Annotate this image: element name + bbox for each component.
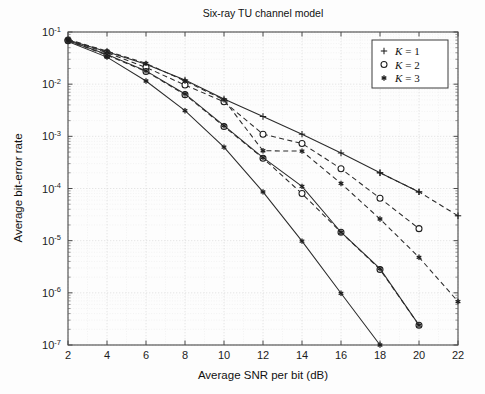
- legend-label: K= 3: [394, 72, 420, 84]
- circle-marker: [299, 191, 305, 197]
- legend-label: K= 2: [394, 59, 420, 71]
- x-tick-label: 8: [182, 349, 188, 361]
- x-tick-label: 10: [218, 349, 230, 361]
- circle-marker: [338, 166, 344, 172]
- x-tick-label: 14: [296, 349, 308, 361]
- x-tick-label: 12: [257, 349, 269, 361]
- chart-svg: Six-ray TU channel model 246810121416182…: [0, 0, 485, 394]
- chart-figure: Six-ray TU channel model 246810121416182…: [0, 0, 485, 394]
- x-tick-label: 2: [65, 349, 71, 361]
- x-tick-label: 18: [374, 349, 386, 361]
- x-tick-label: 6: [143, 349, 149, 361]
- x-tick-label: 16: [335, 349, 347, 361]
- x-tick-label: 22: [452, 349, 464, 361]
- circle-marker: [260, 131, 266, 137]
- chart-title: Six-ray TU channel model: [203, 7, 324, 19]
- x-axis-title: Average SNR per bit (dB): [198, 369, 328, 381]
- circle-marker: [299, 140, 305, 146]
- circle-marker: [377, 195, 383, 201]
- circle-marker: [416, 226, 422, 232]
- legend-label: K= 1: [394, 45, 420, 57]
- y-axis-title: Average bit-error rate: [12, 133, 24, 242]
- x-tick-label: 20: [413, 349, 425, 361]
- x-tick-label: 4: [104, 349, 110, 361]
- chart-legend[interactable]: K= 1K= 2K= 3: [372, 40, 448, 88]
- circle-marker: [381, 62, 387, 68]
